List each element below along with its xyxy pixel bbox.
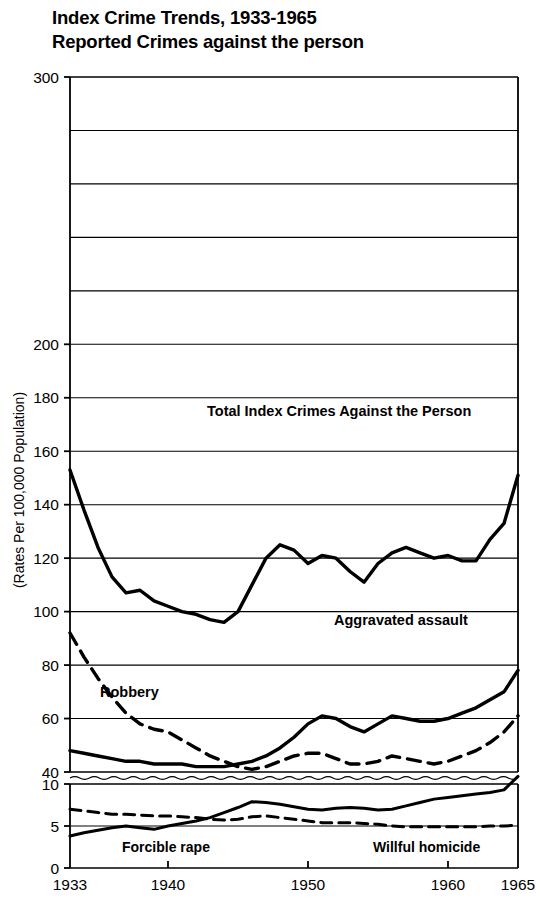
gridlines-group — [70, 77, 518, 868]
series-line — [70, 633, 518, 769]
axis-break-squiggle — [70, 777, 518, 780]
series-line — [70, 809, 518, 827]
axis-frame-group — [70, 77, 518, 868]
series-label-robbery: Robbery — [100, 684, 159, 700]
plot-surface: 3002001801601401201008060401050193319401… — [0, 0, 540, 910]
crime-trends-chart: Index Crime Trends, 1933-1965 Reported C… — [0, 0, 540, 910]
y-tick-label: 300 — [33, 69, 59, 86]
y-tick-label: 10 — [42, 776, 60, 793]
series-label-rape: Forcible rape — [122, 839, 210, 855]
series-label-homicide: Willful homicide — [373, 839, 480, 855]
chart-title-line-2: Reported Crimes against the person — [52, 30, 522, 54]
tick-marks-group — [64, 77, 448, 868]
y-tick-label: 180 — [33, 389, 59, 406]
tick-labels-group: 3002001801601401201008060401050193319401… — [33, 69, 535, 894]
y-tick-label: 0 — [50, 860, 59, 877]
y-tick-label: 100 — [33, 603, 59, 620]
y-tick-label: 140 — [33, 496, 59, 513]
y-axis-title: (Rates Per 100,000 Population) — [11, 392, 27, 588]
x-tick-label: 1965 — [501, 876, 535, 893]
series-paths-group — [70, 470, 518, 836]
series-label-total: Total Index Crimes Against the Person — [207, 403, 471, 419]
y-tick-label: 120 — [33, 550, 59, 567]
series-label-assault: Aggravated assault — [334, 612, 468, 628]
x-tick-label: 1940 — [151, 876, 186, 893]
x-tick-label: 1950 — [291, 876, 326, 893]
x-tick-label: 1960 — [431, 876, 466, 893]
y-tick-label: 80 — [42, 657, 60, 674]
y-tick-label: 5 — [50, 818, 59, 835]
chart-title: Index Crime Trends, 1933-1965 Reported C… — [52, 6, 522, 54]
y-tick-label: 200 — [33, 336, 59, 353]
x-tick-label: 1933 — [53, 876, 87, 893]
y-tick-label: 160 — [33, 443, 59, 460]
y-tick-label: 60 — [42, 710, 60, 727]
series-line — [70, 470, 518, 622]
chart-title-line-1: Index Crime Trends, 1933-1965 — [52, 6, 522, 30]
